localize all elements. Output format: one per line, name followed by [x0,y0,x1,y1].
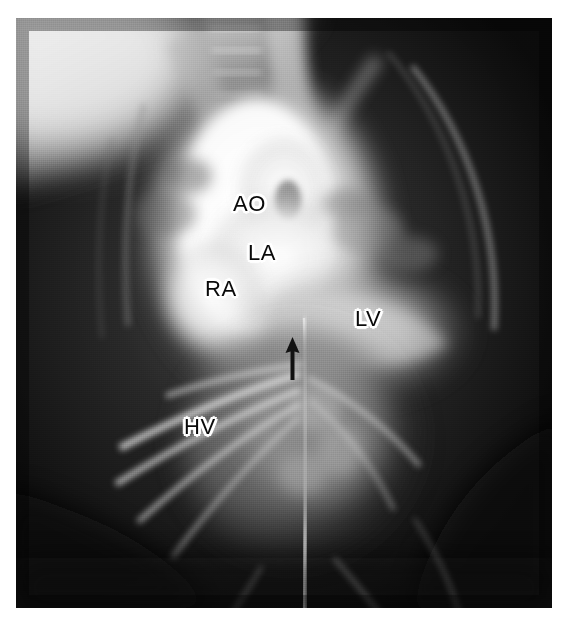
label-lv: LV [355,308,381,330]
label-hv: HV [184,416,216,438]
angiogram-canvas [16,18,552,608]
figure-root: AO LA RA LV HV [0,0,563,628]
label-ra: RA [205,278,237,300]
defect-arrow-icon [283,336,303,380]
label-la: LA [248,242,276,264]
angiogram-image [16,18,552,608]
label-ao: AO [233,193,266,215]
